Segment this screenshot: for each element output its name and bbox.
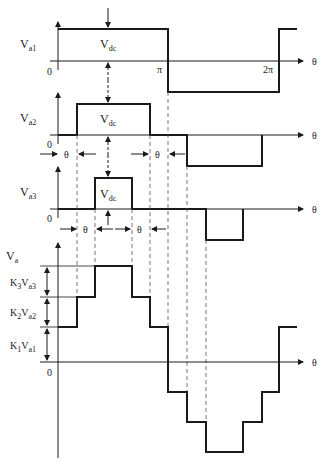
va1-2pi-tick: 2π bbox=[263, 64, 273, 75]
va1-label: Va1 bbox=[20, 37, 36, 53]
va2-theta-label: θ bbox=[312, 130, 317, 141]
va3-theta-label: θ bbox=[312, 204, 317, 215]
va1-amplitude-label: Vdc bbox=[100, 37, 117, 53]
va2-amplitude-label: Vdc bbox=[100, 112, 117, 128]
va2-delay-right-label: θ bbox=[155, 149, 160, 160]
va-waveform bbox=[58, 266, 297, 452]
va1-plot: Va1 Vdc 0 π 2π θ bbox=[20, 8, 317, 92]
va-plot: Va K3Va3 K2Va2 K1Va1 0 θ bbox=[6, 243, 317, 458]
va1-pi-tick: π bbox=[157, 64, 162, 75]
va3-origin-label: 0 bbox=[47, 213, 52, 224]
va-level-k1va1: K1Va1 bbox=[10, 340, 36, 354]
va-theta-label: θ bbox=[312, 357, 317, 368]
va3-amplitude-label: Vdc bbox=[100, 187, 117, 203]
va3-delay-left-label: θ bbox=[83, 224, 88, 235]
va2-delay-left-label: θ bbox=[64, 149, 69, 160]
va2-origin-label: 0 bbox=[47, 139, 52, 150]
va3-delay-right-label: θ bbox=[137, 224, 142, 235]
va1-origin-label: 0 bbox=[47, 66, 52, 77]
va-level-k2va2: K2Va2 bbox=[10, 307, 36, 321]
va1-theta-label: θ bbox=[312, 56, 317, 67]
stepped-waveform-diagram: Va1 Vdc 0 π 2π θ Va2 Vdc 0 θ θ θ Va3 Vdc… bbox=[0, 0, 324, 468]
va-label: Va bbox=[6, 249, 19, 265]
va-origin-label: 0 bbox=[47, 367, 52, 378]
va3-label: Va3 bbox=[20, 185, 36, 201]
va-level-k3va3: K3Va3 bbox=[10, 277, 36, 291]
va2-label: Va2 bbox=[20, 111, 36, 127]
